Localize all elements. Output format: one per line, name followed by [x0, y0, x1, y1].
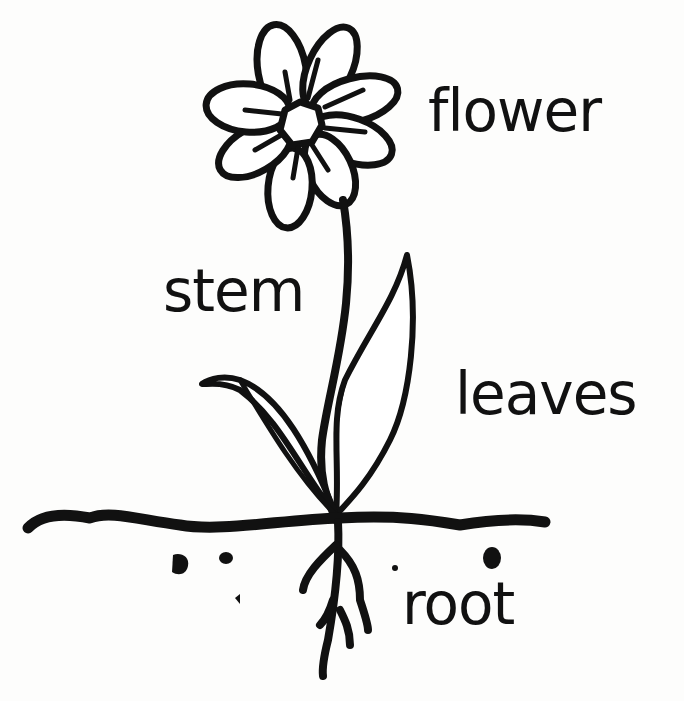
ground-line — [28, 515, 545, 528]
label-leaves: leaves — [455, 365, 637, 423]
label-flower: flower — [428, 82, 601, 140]
root-drawing — [303, 522, 368, 676]
flower-drawing — [204, 19, 403, 230]
label-stem: stem — [163, 262, 304, 320]
plant-diagram: flower stem leaves root — [0, 0, 684, 701]
label-root: root — [402, 575, 514, 633]
